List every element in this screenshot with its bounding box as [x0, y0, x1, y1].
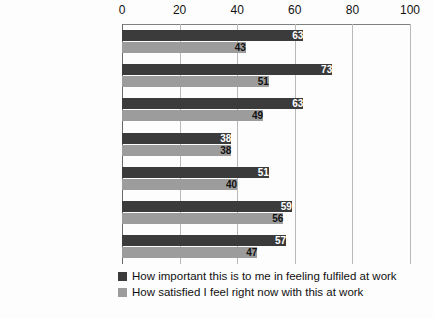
bar-important: 63 — [122, 30, 303, 41]
bar-group: Support from leadership and management59… — [122, 201, 410, 224]
bar-value-label: 38 — [122, 133, 234, 144]
x-tick-label-60: 60 — [288, 3, 301, 17]
bar-group: Return to work and maternity support5140 — [122, 167, 410, 190]
bar-satisfied: 43 — [122, 42, 246, 53]
bar-group: Promotion and career development6343 — [122, 30, 410, 53]
x-tick-label-100: 100 — [400, 3, 420, 17]
bar-satisfied: 47 — [122, 247, 257, 258]
bar-group: Childcare provision3838 — [122, 133, 410, 156]
gridline-100 — [410, 24, 411, 264]
bar-important: 59 — [122, 201, 292, 212]
legend-label-important: How important this is to me in feeling f… — [132, 270, 397, 282]
bar-value-label: 59 — [122, 201, 295, 212]
x-tick-label-80: 80 — [346, 3, 359, 17]
bar-value-label: 73 — [122, 64, 335, 75]
bar-satisfied: 56 — [122, 213, 283, 224]
legend-item-satisfied: How satisfied I feel right now with this… — [118, 285, 418, 299]
bar-group: Flexible working6349 — [122, 98, 410, 121]
bar-important: 63 — [122, 98, 303, 109]
bar-value-label: 43 — [122, 42, 249, 53]
bar-value-label: 63 — [122, 98, 306, 109]
bar-value-label: 49 — [122, 110, 266, 121]
bar-value-label: 47 — [122, 247, 260, 258]
legend-item-important: How important this is to me in feeling f… — [118, 269, 418, 283]
bar-value-label: 38 — [122, 145, 234, 156]
bar-satisfied: 49 — [122, 110, 263, 121]
x-tick-label-0: 0 — [119, 3, 126, 17]
legend-swatch-satisfied-icon — [118, 288, 127, 297]
bar-group: Fair pay7351 — [122, 64, 410, 87]
bar-important: 51 — [122, 167, 269, 178]
chart-legend: How important this is to me in feeling f… — [118, 269, 418, 301]
bar-satisfied: 38 — [122, 145, 231, 156]
bar-chart: 020406080100 Promotion and career develo… — [0, 0, 433, 318]
bar-important: 38 — [122, 133, 231, 144]
bar-group: Network and mentor support5747 — [122, 235, 410, 258]
x-tick-label-40: 40 — [231, 3, 244, 17]
bar-value-label: 63 — [122, 30, 306, 41]
bar-important: 57 — [122, 235, 286, 246]
legend-label-satisfied: How satisfied I feel right now with this… — [132, 286, 363, 298]
bar-important: 73 — [122, 64, 332, 75]
x-tick-label-20: 20 — [173, 3, 186, 17]
legend-swatch-important-icon — [118, 272, 127, 281]
bar-value-label: 56 — [122, 213, 286, 224]
bar-value-label: 57 — [122, 235, 289, 246]
bar-value-label: 51 — [122, 167, 272, 178]
bar-value-label: 40 — [122, 179, 240, 190]
bar-value-label: 51 — [122, 76, 272, 87]
bar-satisfied: 40 — [122, 179, 237, 190]
bar-satisfied: 51 — [122, 76, 269, 87]
